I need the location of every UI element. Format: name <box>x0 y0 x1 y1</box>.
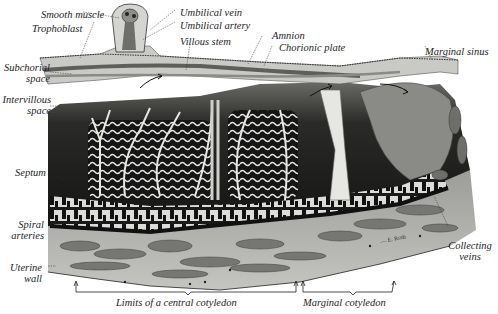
label-villous-stem: Villous stem <box>180 36 231 47</box>
umbilical-cord <box>112 4 148 52</box>
label-uterine-wall: Uterine wall <box>0 262 42 284</box>
label-spiral-line2: arteries <box>11 230 44 241</box>
label-subchorial-line1: Subchorial <box>4 62 50 73</box>
label-amnion: Amnion <box>272 30 305 41</box>
placenta-illustration <box>0 0 498 314</box>
label-spiral-arteries: Spiral arteries <box>0 219 44 241</box>
label-smooth-muscle: Smooth muscle <box>41 9 104 20</box>
label-subchorial-space: Subchorial space <box>0 62 50 84</box>
label-uterine-line2: wall <box>24 273 42 284</box>
label-collecting-veins: Collecting veins <box>442 240 498 262</box>
label-intervillous-line1: Intervillous <box>3 94 51 105</box>
label-trophoblast: Trophoblast <box>32 23 82 34</box>
label-chorionic-plate: Chorionic plate <box>279 42 345 53</box>
label-marginal-sinus: Marginal sinus <box>425 46 489 57</box>
label-central-cotyledon: Limits of a central cotyledon <box>116 297 237 308</box>
label-uterine-line1: Uterine <box>10 262 42 273</box>
label-intervillous-space: Intervillous space <box>0 94 51 116</box>
label-umbilical-vein: Umbilical vein <box>180 7 242 18</box>
label-intervillous-line2: space <box>27 105 51 116</box>
label-marginal-cotyledon: Marginal cotyledon <box>303 297 386 308</box>
label-collecting-line2: veins <box>459 251 481 262</box>
chorionic-plate <box>40 46 458 84</box>
label-septum: Septum <box>15 167 46 178</box>
label-collecting-line1: Collecting <box>448 240 492 251</box>
label-subchorial-line2: space <box>26 73 50 84</box>
label-umbilical-artery: Umbilical artery <box>180 20 250 31</box>
placenta-diagram: Smooth muscle Trophoblast Umbilical vein… <box>0 0 498 314</box>
label-spiral-line1: Spiral <box>18 219 44 230</box>
